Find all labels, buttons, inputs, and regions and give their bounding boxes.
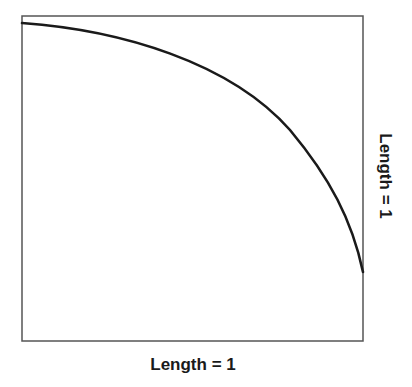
curve <box>22 23 363 272</box>
square-outline <box>22 16 363 341</box>
bottom-length-label: Length = 1 <box>0 355 386 375</box>
unit-square-diagram <box>0 0 412 387</box>
right-length-label: Length = 1 <box>375 133 395 218</box>
